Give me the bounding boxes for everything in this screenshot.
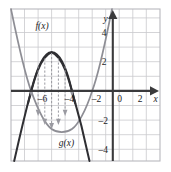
- origin-label: 0: [117, 94, 122, 104]
- label-f-of-x: f(x): [35, 21, 48, 32]
- x-tick-pos2: 2: [138, 94, 143, 104]
- label-g-of-x: g(x): [59, 138, 74, 149]
- y-tick-pos2: 2: [102, 57, 107, 67]
- x-tick-neg4: –4: [64, 94, 75, 104]
- graph-figure: –6 –4 –2 2 0 4 2 –2 –4 y x f(x) g(x): [0, 0, 171, 172]
- y-tick-pos4: 4: [102, 28, 107, 38]
- y-axis-label: y: [102, 14, 108, 24]
- y-tick-neg2: –2: [98, 116, 109, 126]
- coordinate-plane-svg: –6 –4 –2 2 0 4 2 –2 –4 y x f(x) g(x): [0, 0, 171, 172]
- x-tick-neg2: –2: [91, 94, 102, 104]
- y-tick-neg4: –4: [98, 145, 109, 155]
- x-axis-label: x: [152, 94, 158, 104]
- x-tick-neg6: –6: [37, 94, 48, 104]
